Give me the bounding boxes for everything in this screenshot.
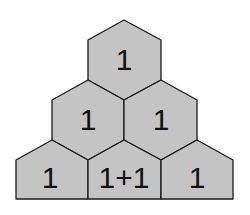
hexagon-pyramid-diagram: 1 1 1 1 1+1 1 (0, 0, 250, 215)
cell-label: 1 (116, 43, 133, 76)
cell-label: 1+1 (99, 161, 150, 194)
cell-label: 1 (153, 103, 170, 136)
cell-label: 1 (42, 161, 59, 194)
cell-label: 1 (80, 103, 97, 136)
cell-label: 1 (189, 161, 206, 194)
